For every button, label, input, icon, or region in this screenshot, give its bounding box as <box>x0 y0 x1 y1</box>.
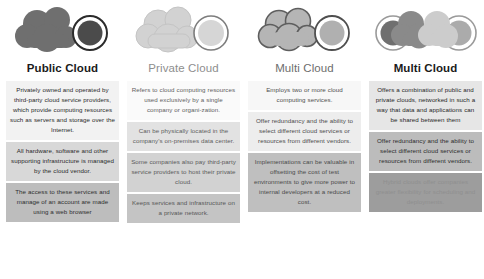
box-list: Employs two or more cloud computing serv… <box>248 81 361 212</box>
column-hybrid-multi-cloud: Multi Cloud Offers a combination of publ… <box>365 4 484 212</box>
info-box: All hardware, software and other support… <box>6 142 119 181</box>
info-box: Privately owned and operated by third-pa… <box>6 81 119 140</box>
column-title: Private Cloud <box>148 62 218 75</box>
cloud-outline-with-circle-icon <box>248 4 361 60</box>
double-cloud-with-circles-icon <box>369 4 482 60</box>
column-title: Multi Cloud <box>275 62 334 75</box>
column-multi-cloud: Multi Cloud Employs two or more cloud co… <box>244 4 365 212</box>
info-box: Offer redundancy and the ability to sele… <box>369 132 482 171</box>
cloud-light-with-circle-icon <box>127 4 240 60</box>
box-list: Privately owned and operated by third-pa… <box>6 81 119 223</box>
column-title: Public Cloud <box>27 62 98 75</box>
column-private-cloud: Private Cloud Refers to cloud computing … <box>123 4 244 223</box>
box-list: Refers to cloud computing resources used… <box>127 81 240 223</box>
info-box: Implementations can be valuable in offse… <box>248 153 361 212</box>
info-box: Keeps services and infrastructure on a p… <box>127 194 240 223</box>
info-box: Can be physically located in the company… <box>127 122 240 151</box>
cloud-dark-with-circle-icon <box>6 4 119 60</box>
info-box: Offer redundancy and the ability to sele… <box>248 112 361 151</box>
cloud-types-infographic: Public Cloud Privately owned and operate… <box>0 0 484 279</box>
info-box: Refers to cloud computing resources used… <box>127 81 240 120</box>
info-box: Employs two or more cloud computing serv… <box>248 81 361 110</box>
info-box: Some companies also pay third-party serv… <box>127 153 240 192</box>
column-title: Multi Cloud <box>394 62 458 75</box>
info-box: Offers a combination of public and priva… <box>369 81 482 130</box>
info-box: The access to these services and manage … <box>6 183 119 222</box>
column-public-cloud: Public Cloud Privately owned and operate… <box>2 4 123 222</box>
box-list: Offers a combination of public and priva… <box>369 81 482 212</box>
info-box: Hybrid clouds offer companies greater fl… <box>369 173 482 212</box>
